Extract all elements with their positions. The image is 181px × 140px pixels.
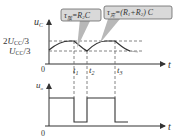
waveform-diagram: uC t 0 2UCC/3 UCC/3 t1 t2 t3: [0, 0, 181, 140]
level-label-2ucc3: 2UCC/3: [3, 36, 30, 46]
level-label-ucc3: UCC/3: [9, 46, 31, 56]
time-label-t3: t3: [117, 65, 123, 76]
y-axis-label-uo: uo: [36, 80, 44, 91]
bottom-plot: uo t 0: [36, 80, 171, 138]
x-axis-label-t-bottom: t: [168, 121, 171, 132]
time-label-t2: t2: [89, 65, 95, 76]
origin-label-bottom: 0: [41, 129, 45, 138]
origin-label: 0: [41, 65, 45, 74]
callout-discharge: τ放=R2C: [61, 9, 101, 48]
callout-charge: τ充=(R1+R2) C: [100, 6, 172, 43]
y-axis-label-uc: uC: [34, 16, 44, 28]
time-label-t1: t1: [73, 65, 79, 76]
top-plot: uC t 0 2UCC/3 UCC/3 t1 t2 t3: [3, 6, 172, 98]
callout-charge-text: τ充=(R1+R2) C: [107, 8, 154, 18]
uo-waveform: [49, 98, 128, 122]
x-axis-label-t: t: [168, 59, 171, 70]
uc-waveform: [49, 41, 130, 51]
